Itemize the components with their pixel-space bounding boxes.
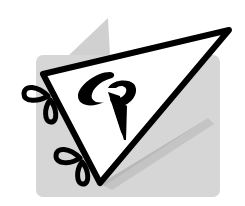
cp-pennant-logo: CP: [0, 0, 245, 206]
logo-graphic: [0, 0, 245, 206]
background-peak-shape: [68, 18, 110, 56]
